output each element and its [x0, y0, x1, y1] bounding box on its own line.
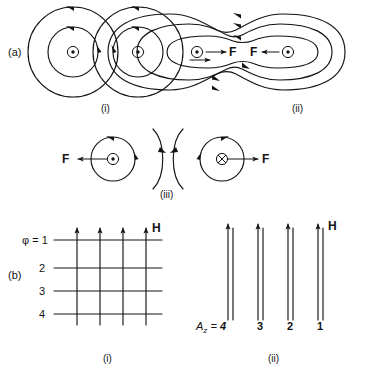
right-force-label: F	[250, 45, 257, 59]
middle-contour-bottom-arrowhead-icon	[212, 75, 220, 82]
potential-label-1: 1	[317, 320, 323, 332]
iii-middle-right-arc	[173, 129, 183, 189]
potential-label-3: 3	[257, 320, 263, 332]
physics-figure: (a)	[0, 0, 377, 371]
panel-a-i-caption: (i)	[101, 103, 110, 114]
panel-b-i-caption: (i)	[103, 353, 112, 364]
iii-middle-left-arc	[153, 129, 163, 189]
flux-label-4: 4	[39, 308, 45, 320]
iii-left-side-arrowhead-icon	[134, 152, 139, 160]
panel-a-label: (a)	[8, 46, 21, 58]
left-inner-side-arrowhead-icon	[97, 45, 102, 53]
iii-left-force-label: F	[62, 152, 69, 166]
left-force-label: F	[229, 45, 236, 59]
panel-a-ii-caption: (ii)	[292, 103, 303, 114]
panel-a-i-group: (i)	[28, 6, 183, 114]
left-current-out-of-page-icon	[67, 46, 78, 57]
iii-right-current-into-page-icon	[216, 153, 227, 164]
panel-b-ii-field-label: H	[328, 219, 337, 233]
iii-right-force-label: F	[262, 152, 269, 166]
potential-label-2: 2	[287, 320, 293, 332]
flux-label-3: 3	[39, 285, 45, 297]
iii-right-side-arrowhead-icon	[197, 152, 202, 160]
panel-b-i-field-label: H	[152, 221, 161, 235]
outer-contour-bottom-arrowhead-icon	[212, 86, 220, 92]
inner-contour-bottom-arrowhead-icon	[242, 63, 250, 70]
outer-contour-top-arrowhead-icon	[233, 13, 241, 19]
panel-b-label: (b)	[8, 269, 21, 281]
merged-left-current-out-of-page-icon	[191, 46, 202, 57]
panel-b-ii-group: H Az = 4 3 2 1 (ii)	[195, 219, 337, 364]
iii-left-current-out-of-page-icon	[107, 153, 118, 164]
right-current-out-of-page-icon	[132, 46, 143, 57]
panel-a-iii-caption: (iii)	[160, 189, 173, 200]
potential-label-4: Az = 4	[195, 320, 226, 335]
flux-label-1: φ = 1	[22, 234, 48, 246]
panel-a-iii-group: F F (iii)	[62, 129, 269, 200]
panel-b-ii-caption: (ii)	[268, 353, 279, 364]
merged-right-current-out-of-page-icon	[282, 46, 293, 57]
middle-contour-top-arrowhead-icon	[233, 23, 241, 29]
flux-label-2: 2	[39, 262, 45, 274]
figure-canvas: (a)	[0, 0, 377, 371]
panel-b-i-group: H φ = 1 2 3 4 (i)	[22, 221, 162, 364]
